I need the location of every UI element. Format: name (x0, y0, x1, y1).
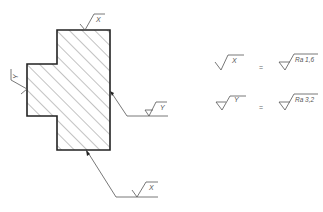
legend-value-y: Ra 3,2 (295, 96, 315, 103)
symbol-label-bottom: X (148, 184, 154, 191)
legend-equals-x: = (259, 64, 263, 71)
legend-symbol-y: Y (234, 96, 240, 103)
symbol-label-top: X (95, 16, 101, 23)
symbol-label-right: Y (160, 104, 166, 111)
roughness-symbol-left: Y (11, 69, 27, 94)
leader-right: Y (110, 91, 168, 116)
leader-bottom: X (86, 150, 158, 197)
legend-value-x: Ra 1,6 (295, 56, 315, 63)
roughness-symbol-top: X (80, 14, 105, 30)
legend-symbol-x: X (231, 57, 237, 64)
symbol-label-left: Y (12, 73, 19, 79)
part-section (27, 30, 110, 150)
roughness-drawing: X Y Y X X = Ra 1,6 Y = Ra 3,2 (0, 0, 323, 212)
legend-row-y: Y = Ra 3,2 (216, 94, 318, 111)
figure-caption (80, 200, 220, 210)
legend-equals-y: = (259, 104, 263, 111)
part-hatch (27, 30, 110, 150)
legend-row-x: X = Ra 1,6 (215, 54, 318, 71)
